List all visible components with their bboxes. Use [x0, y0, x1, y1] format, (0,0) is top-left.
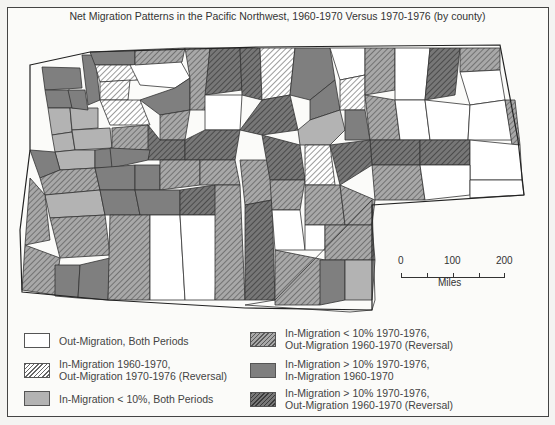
- legend-label: Out-Migration, Both Periods: [59, 335, 189, 347]
- legend-in-lt10-both: In-Migration < 10%, Both Periods: [24, 391, 213, 406]
- legend-in-lt10-reversal: In-Migration < 10% 1970-1976, Out-Migrat…: [250, 327, 453, 351]
- legend-out-both: Out-Migration, Both Periods: [24, 333, 189, 348]
- legend-swatch-medium-hatch: [250, 332, 276, 347]
- legend-swatch-dark-gray: [250, 363, 276, 378]
- scale-unit: Miles: [438, 277, 461, 288]
- county: [42, 67, 82, 90]
- legend-swatch-white: [24, 333, 50, 348]
- legend-swatch-light-hatch: [24, 363, 50, 378]
- legend-label: In-Migration < 10% 1970-1976, Out-Migrat…: [285, 327, 453, 351]
- scale-label-0: 0: [398, 255, 404, 266]
- legend-reversal-out: In-Migration 1960-1970, Out-Migration 19…: [24, 358, 227, 382]
- legend-in-gt10-both: In-Migration > 10% 1970-1976, In-Migrati…: [250, 358, 429, 382]
- legend-label: In-Migration > 10% 1970-1976, In-Migrati…: [285, 358, 429, 382]
- scale-label-100: 100: [444, 255, 461, 266]
- legend-swatch-light-gray: [24, 391, 50, 406]
- legend-label: In-Migration > 10% 1970-1976, Out-Migrat…: [285, 387, 453, 411]
- scale-label-200: 200: [496, 255, 513, 266]
- legend-swatch-dark-hatch: [250, 392, 276, 407]
- legend-label: In-Migration < 10%, Both Periods: [59, 393, 213, 405]
- legend-in-gt10-reversal: In-Migration > 10% 1970-1976, Out-Migrat…: [250, 387, 453, 411]
- legend-label: In-Migration 1960-1970, Out-Migration 19…: [59, 358, 227, 382]
- scale-bar: 0 100 200 Miles: [398, 255, 518, 295]
